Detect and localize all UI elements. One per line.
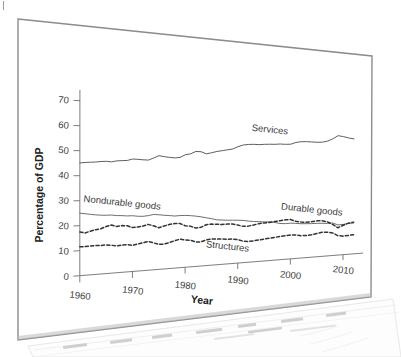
y-axis-title: Percentage of GDP bbox=[33, 147, 45, 242]
x-tick-label: 1970 bbox=[122, 284, 144, 297]
x-tick-label: 1990 bbox=[227, 273, 249, 286]
page-edge-mark bbox=[3, 1, 4, 10]
x-tick-label: 1960 bbox=[69, 289, 91, 302]
y-tick-label: 30 bbox=[58, 194, 70, 206]
y-tick-label: 50 bbox=[58, 144, 70, 156]
x-tick-label: 2010 bbox=[332, 263, 354, 276]
y-tick-label: 20 bbox=[58, 220, 70, 232]
y-tick-label: 60 bbox=[58, 119, 70, 131]
y-tick bbox=[73, 276, 79, 277]
x-tick-label: 1980 bbox=[174, 278, 196, 291]
y-tick-label: 40 bbox=[58, 169, 70, 181]
y-tick-label: 70 bbox=[58, 93, 70, 105]
x-axis-title: Year bbox=[190, 293, 213, 307]
y-tick-label: 0 bbox=[63, 270, 69, 281]
photo-scene: 010203040506070196019701980199020002010P… bbox=[0, 0, 401, 357]
y-tick-label: 10 bbox=[58, 245, 70, 257]
x-tick-label: 2000 bbox=[280, 268, 302, 281]
scene-svg: 010203040506070196019701980199020002010P… bbox=[0, 0, 401, 357]
